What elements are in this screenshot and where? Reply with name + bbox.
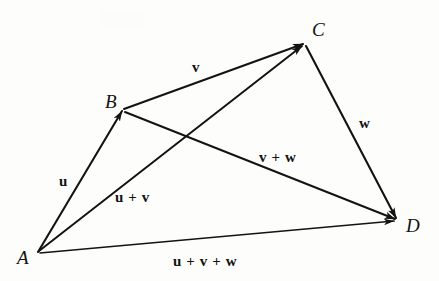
vector-label-v: v (192, 60, 200, 75)
vector-diagram-canvas (0, 0, 439, 281)
vector-arrow-w (306, 46, 396, 218)
vector-arrow-u (38, 111, 122, 252)
vector-label-u-plus-v: u + v (115, 190, 150, 205)
vertex-label-c: C (312, 20, 325, 39)
vector-arrow-v (124, 44, 303, 109)
vertex-label-d: D (406, 216, 420, 235)
vertex-label-a: A (17, 248, 29, 267)
vector-label-u-plus-v-plus-w: u + v + w (173, 254, 237, 269)
vector-label-u: u (59, 174, 68, 189)
vector-diagram-figure: A B C D u v w u + v v + w u + v + w (0, 0, 439, 281)
vector-label-v-plus-w: v + w (259, 150, 296, 165)
vector-label-w: w (359, 116, 370, 131)
vector-arrow-v-plus-w (125, 112, 395, 219)
vector-arrow-u-plus-v-plus-w (40, 221, 394, 253)
vertex-label-b: B (105, 92, 117, 111)
